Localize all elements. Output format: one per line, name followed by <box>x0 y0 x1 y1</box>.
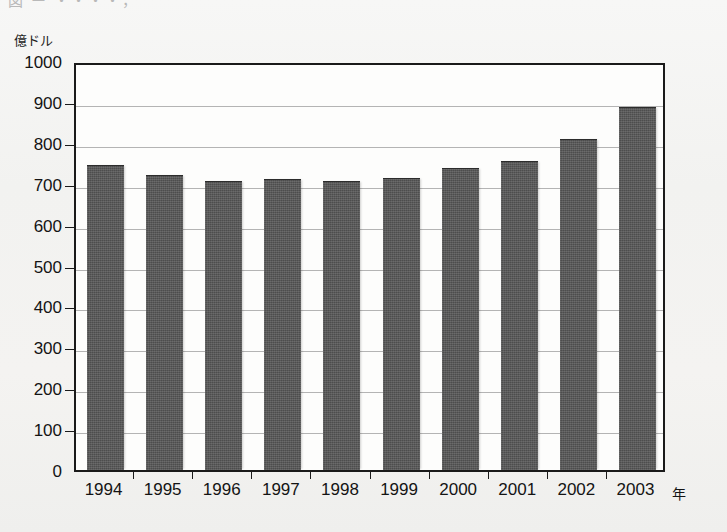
y-axis-tick-label: 700 <box>8 177 62 194</box>
x-axis-tick-label: 1996 <box>192 481 252 498</box>
bar <box>323 181 360 470</box>
bar <box>560 139 597 470</box>
x-axis-tick-label: 2001 <box>487 481 547 498</box>
y-axis-tick <box>65 308 74 309</box>
bar <box>146 175 183 470</box>
y-axis-tick <box>65 349 74 350</box>
bar <box>264 179 301 470</box>
x-axis-tick <box>370 472 371 479</box>
x-axis-tick <box>251 472 252 479</box>
y-axis-tick-label: 800 <box>8 136 62 153</box>
y-axis-tick <box>65 390 74 391</box>
x-axis-tick-label: 2003 <box>605 481 665 498</box>
y-axis-tick-label: 200 <box>8 381 62 398</box>
y-axis-tick-labels: 01002003004005006007008009001000 <box>0 0 62 532</box>
x-axis-tick-label: 2002 <box>546 481 606 498</box>
bar <box>501 161 538 470</box>
x-axis-tick-label: 1997 <box>251 481 311 498</box>
y-axis-tick <box>65 227 74 228</box>
y-axis-tick-label: 0 <box>8 463 62 480</box>
y-axis-tick-label: 1000 <box>8 54 62 71</box>
x-axis-tick-label: 1995 <box>133 481 193 498</box>
bar <box>442 168 479 470</box>
bar-series <box>76 65 663 470</box>
x-axis-tick-label: 1999 <box>369 481 429 498</box>
x-axis-tick <box>547 472 548 479</box>
y-axis-tick <box>65 186 74 187</box>
x-axis-tick <box>429 472 430 479</box>
y-axis-tick-label: 400 <box>8 299 62 316</box>
bar <box>205 181 242 470</box>
x-axis-tick <box>310 472 311 479</box>
y-axis-tick-label: 600 <box>8 218 62 235</box>
x-axis-tick <box>488 472 489 479</box>
y-axis-tick <box>65 431 74 432</box>
y-axis-tick-label: 900 <box>8 95 62 112</box>
bar <box>87 165 124 470</box>
figure-page: 図 ー ・・・・， 億ドル 01002003004005006007008009… <box>0 0 727 532</box>
cut-off-caption: 図 ー ・・・・， <box>0 0 727 10</box>
x-axis-tick-label: 1994 <box>74 481 134 498</box>
bar <box>383 178 420 470</box>
y-axis-tick <box>65 104 74 105</box>
x-axis-tick-label: 2000 <box>428 481 488 498</box>
y-axis-tick <box>65 145 74 146</box>
y-axis-tick-label: 100 <box>8 422 62 439</box>
x-axis-tick-label: 1998 <box>310 481 370 498</box>
y-axis-tick <box>65 268 74 269</box>
bar-chart-plot-area <box>74 63 665 472</box>
y-axis-tick-label: 500 <box>8 259 62 276</box>
bar <box>619 107 656 470</box>
y-axis-tick-label: 300 <box>8 340 62 357</box>
x-axis-name-label: 年 <box>672 483 686 503</box>
x-axis-tick <box>606 472 607 479</box>
x-axis-tick <box>133 472 134 479</box>
x-axis-tick <box>192 472 193 479</box>
